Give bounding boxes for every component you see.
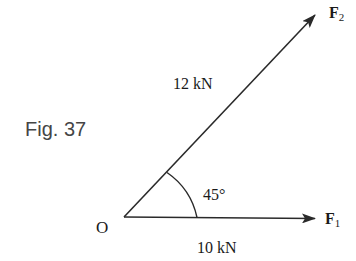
origin-label: O — [96, 218, 108, 237]
vector-f1-line — [124, 217, 315, 219]
f2-magnitude-label: 12 kN — [173, 75, 213, 92]
angle-label: 45° — [203, 186, 225, 203]
figure-caption: Fig. 37 — [25, 118, 86, 140]
f2-name: F — [329, 4, 339, 21]
f1-name: F — [325, 210, 335, 227]
angle-arc — [167, 173, 197, 218]
f1-magnitude-label: 10 kN — [197, 239, 237, 256]
f1-subscript: 1 — [335, 217, 341, 229]
force-diagram: Fig. 37 O 45° 12 kN 10 kN F2 F1 — [0, 0, 356, 261]
f2-subscript: 2 — [339, 11, 345, 23]
f2-label: F2 — [329, 4, 344, 23]
f1-label: F1 — [325, 210, 340, 229]
